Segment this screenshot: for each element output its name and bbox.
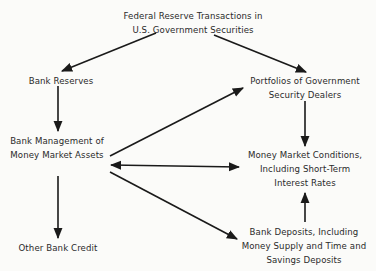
node-label-line: Savings Deposits [234, 253, 374, 267]
edge-management-to-deposits [110, 172, 237, 239]
node-label-line: Interest Rates [240, 176, 370, 190]
node-label-line: Portfolios of Government [240, 74, 370, 88]
node-label-line: Security Dealers [240, 88, 370, 102]
edge-management-to-portfolios [110, 88, 243, 156]
node-label-line: Other Bank Credit [10, 241, 106, 255]
node-label-line: Money Market Assets [4, 148, 110, 162]
edge-management-mmc-bidirectional [111, 165, 239, 167]
node-label-line: Bank Management of [4, 134, 110, 148]
node-label-line: U.S. Government Securities [108, 23, 278, 37]
node-dealer-portfolios: Portfolios of Government Security Dealer… [240, 74, 370, 102]
node-label-line: Bank Deposits, Including [234, 225, 374, 239]
node-label-line: Money Market Conditions, [240, 148, 370, 162]
node-bank-deposits: Bank Deposits, Including Money Supply an… [234, 225, 374, 267]
edge-fed-to-portfolios [214, 35, 306, 72]
node-fed-transactions: Federal Reserve Transactions in U.S. Gov… [108, 9, 278, 37]
node-money-market-conditions: Money Market Conditions, Including Short… [240, 148, 370, 190]
node-bank-management: Bank Management of Money Market Assets [4, 134, 110, 162]
node-label-line: Federal Reserve Transactions in [108, 9, 278, 23]
edge-fed-to-reserves [62, 33, 156, 71]
node-bank-reserves: Bank Reserves [18, 74, 104, 88]
node-label-line: Bank Reserves [18, 74, 104, 88]
node-other-bank-credit: Other Bank Credit [10, 241, 106, 255]
node-label-line: Including Short-Term [240, 162, 370, 176]
node-label-line: Money Supply and Time and [234, 239, 374, 253]
